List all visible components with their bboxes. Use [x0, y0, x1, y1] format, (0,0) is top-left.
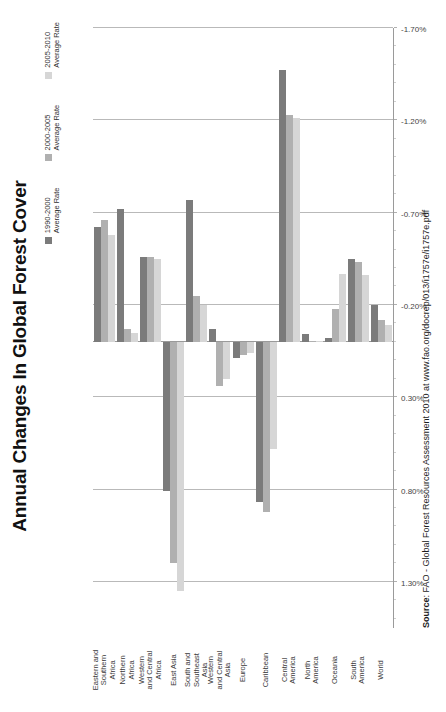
bar	[293, 118, 300, 341]
legend-item[interactable]: 2000-2005Average Rate	[43, 105, 61, 162]
chart-figure: Annual Changes In Global Forest Cover 19…	[1, 6, 445, 706]
bar	[355, 262, 362, 341]
bar	[147, 257, 154, 342]
bar	[302, 334, 309, 341]
legend-sublabel: Average Rate	[52, 22, 61, 68]
axis-tick	[394, 396, 397, 397]
value-tick-label: -1.70%	[401, 25, 426, 34]
category-label: Europe	[239, 633, 248, 707]
axis-tick	[394, 304, 397, 305]
bar	[223, 342, 230, 379]
category-label: Westernand CentralAsia	[207, 633, 233, 707]
bar	[279, 70, 286, 341]
bar	[240, 342, 247, 355]
axis-minor-tick	[394, 249, 396, 250]
bar	[101, 220, 108, 342]
gridline	[93, 212, 393, 213]
category-label: Caribbean	[262, 633, 271, 707]
axis-minor-tick	[394, 618, 396, 619]
legend-period: 2005-2010	[43, 22, 52, 68]
bar	[170, 342, 177, 564]
axis-minor-tick	[394, 230, 396, 231]
bar	[362, 275, 369, 341]
bar	[339, 274, 346, 342]
axis-minor-tick	[394, 359, 396, 360]
bar	[263, 342, 270, 512]
axis-minor-tick	[394, 562, 396, 563]
category-label: Oceania	[331, 633, 340, 707]
category-label-line: Africa	[155, 633, 164, 707]
bar	[325, 338, 332, 342]
bar	[216, 342, 223, 386]
axis-tick	[394, 489, 397, 490]
category-label-line: Caribbean	[262, 633, 271, 707]
category-label: East Asia	[170, 633, 179, 707]
chart-legend: 1990-2000Average Rate2000-2005Average Ra…	[43, 22, 61, 244]
bar	[371, 305, 378, 342]
bar	[177, 342, 184, 591]
axis-minor-tick	[394, 544, 396, 545]
legend-swatch-icon	[45, 154, 52, 161]
axis-minor-tick	[394, 525, 396, 526]
category-label: Westernand CentralAfrica	[138, 633, 164, 707]
legend-label: 2000-2005Average Rate	[43, 105, 61, 151]
bar	[385, 325, 392, 342]
bar	[131, 333, 138, 342]
source-text: : FAO - Global Forest Resources Assessme…	[421, 210, 431, 598]
bar	[154, 259, 161, 342]
gridline	[93, 27, 393, 28]
category-label-line: East Asia	[170, 633, 179, 707]
value-axis-line	[393, 28, 394, 628]
axis-minor-tick	[394, 267, 396, 268]
legend-item[interactable]: 1990-2000Average Rate	[43, 187, 61, 244]
value-tick-label: -1.20%	[401, 117, 426, 126]
axis-minor-tick	[394, 156, 396, 157]
category-label-line: Europe	[239, 633, 248, 707]
legend-label: 1990-2000Average Rate	[43, 187, 61, 233]
bar	[247, 342, 254, 353]
bar	[117, 209, 124, 342]
source-label: Source	[421, 597, 431, 628]
bar	[200, 305, 207, 342]
category-label: CentralAmerica	[281, 633, 298, 707]
axis-minor-tick	[394, 45, 396, 46]
category-label: World	[377, 633, 386, 707]
chart-title: Annual Changes In Global Forest Cover	[9, 6, 31, 706]
bar	[348, 259, 355, 342]
category-label-line: America	[289, 633, 298, 707]
legend-period: 2000-2005	[43, 105, 52, 151]
legend-swatch-icon	[45, 237, 52, 244]
category-label-line: Oceania	[331, 633, 340, 707]
bar	[233, 342, 240, 359]
category-label-line: Asia	[224, 633, 233, 707]
gridline	[93, 396, 393, 397]
axis-minor-tick	[394, 507, 396, 508]
category-label: Eastern andSouthernAfrica	[92, 633, 118, 707]
value-axis-labels: 1.30%0.80%0.30%-0.20%-0.70%-1.20%-1.70%	[399, 28, 439, 628]
category-label: NorthernAfrica	[119, 633, 136, 707]
axis-minor-tick	[394, 193, 396, 194]
axis-minor-tick	[394, 64, 396, 65]
gridline	[93, 489, 393, 490]
axis-minor-tick	[394, 138, 396, 139]
category-label-line: World	[377, 633, 386, 707]
axis-tick	[394, 119, 397, 120]
source-note: Source: FAO - Global Forest Resources As…	[421, 210, 431, 628]
plot-area	[93, 28, 393, 628]
axis-minor-tick	[394, 175, 396, 176]
bar	[256, 342, 263, 503]
bar	[186, 200, 193, 342]
category-label: SouthAmerica	[350, 633, 367, 707]
category-axis-labels: Eastern andSouthernAfricaNorthernAfricaW…	[93, 630, 393, 706]
legend-swatch-icon	[45, 72, 52, 79]
bar	[332, 309, 339, 342]
axis-minor-tick	[394, 470, 396, 471]
bar	[193, 296, 200, 342]
bar	[316, 341, 323, 342]
axis-minor-tick	[394, 452, 396, 453]
legend-sublabel: Average Rate	[52, 105, 61, 151]
legend-period: 1990-2000	[43, 187, 52, 233]
legend-item[interactable]: 2005-2010Average Rate	[43, 22, 61, 79]
axis-minor-tick	[394, 599, 396, 600]
axis-minor-tick	[394, 341, 396, 342]
